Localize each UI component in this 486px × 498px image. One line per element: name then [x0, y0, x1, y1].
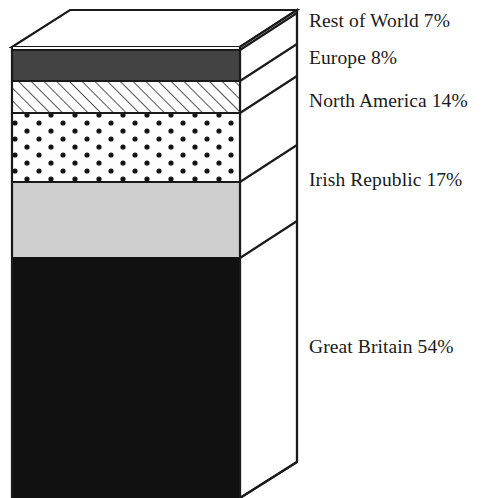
segment-front-irish-republic — [12, 113, 240, 182]
segment-front-europe — [12, 50, 240, 81]
segment-front-north-america — [12, 81, 240, 113]
segment-front-irish-republic-lower — [12, 182, 240, 258]
chart-page: Rest of World 7% Europe 8% North America… — [0, 0, 486, 498]
bar-right-face — [240, 10, 297, 498]
stacked-bar-3d-chart — [0, 0, 486, 498]
segment-front-great-britain — [12, 258, 240, 498]
